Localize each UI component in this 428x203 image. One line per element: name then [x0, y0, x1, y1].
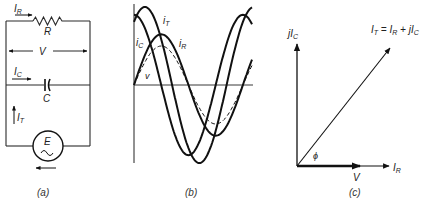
caption-b: (b)	[185, 187, 197, 198]
total-current-label: IT	[17, 112, 25, 124]
label-i-T: iT	[163, 15, 170, 27]
label-i-C: iC	[136, 37, 144, 49]
label-V: V	[353, 172, 361, 183]
resistor-current-label: IR	[14, 3, 22, 15]
figure: IR R V IC C IT E (a) iT iC i	[0, 0, 428, 203]
caption-a: (a)	[37, 187, 49, 198]
label-IR: IR	[393, 162, 401, 174]
panel-a-circuit: IR R V IC C IT E (a)	[6, 3, 90, 198]
label-IT-equation: IT = IR + jIC	[371, 24, 420, 36]
voltage-label: V	[39, 46, 47, 57]
caption-c: (c)	[349, 187, 361, 198]
capacitor-current-label: IC	[14, 66, 23, 78]
IT-phasor	[297, 48, 390, 166]
label-v: v	[145, 71, 150, 81]
label-i-R: iR	[179, 38, 186, 50]
source-label: E	[44, 136, 51, 147]
V-phasor-head	[352, 163, 361, 170]
capacitor-label: C	[43, 93, 51, 104]
label-phi: ϕ	[313, 151, 318, 161]
panel-c-phasor: jIC IT = IR + jIC IR V ϕ (c)	[286, 24, 420, 198]
resistor-symbol	[33, 17, 64, 25]
resistor-label: R	[44, 26, 51, 37]
panel-b-waveforms: iT iC iR v (b)	[134, 4, 253, 198]
label-jIC: jIC	[286, 28, 299, 40]
